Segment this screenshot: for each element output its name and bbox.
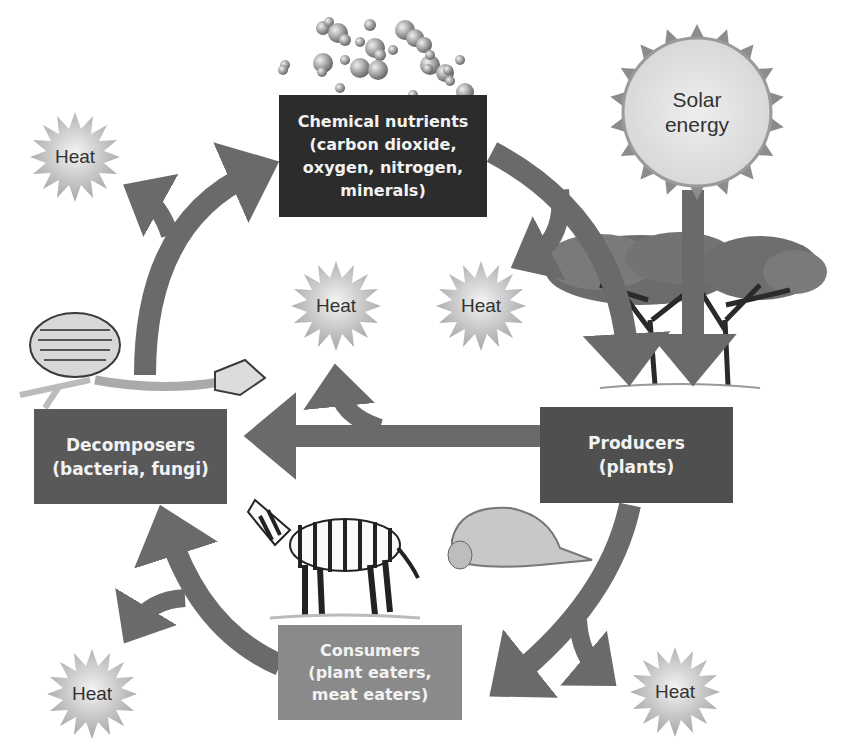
chemical-nutrients-line4: minerals) — [340, 179, 425, 202]
lioness-illustration — [448, 508, 592, 569]
producers-line1: Producers — [588, 431, 685, 455]
decomposers-line2: (bacteria, fungi) — [52, 457, 209, 481]
consumers-line2: (plant eaters, — [308, 662, 431, 684]
arrow-decomposers-to-heat — [142, 195, 170, 235]
consumers-line3: meat eaters) — [312, 684, 428, 706]
molecules-illustration — [278, 17, 474, 101]
heat-label-bottom-right: Heat — [630, 681, 720, 703]
heat-label-bottom-left: Heat — [47, 683, 137, 705]
heat-label-center-right: Heat — [436, 295, 526, 317]
decomposers-box: Decomposers (bacteria, fungi) — [34, 409, 227, 504]
chemical-nutrients-line3: oxygen, nitrogen, — [303, 156, 463, 179]
heat-label-center-left: Heat — [291, 295, 381, 317]
solar-energy-line1: Solar — [647, 87, 747, 112]
ecosystem-diagram: Chemical nutrients (carbon dioxide, oxyg… — [0, 0, 841, 753]
chemical-nutrients-line2: (carbon dioxide, — [309, 133, 456, 156]
consumers-box: Consumers (plant eaters, meat eaters) — [278, 625, 462, 720]
producers-box: Producers (plants) — [540, 407, 733, 503]
arrow-producers-to-heat — [337, 385, 380, 428]
zebra-illustration — [248, 500, 420, 618]
chemical-nutrients-box: Chemical nutrients (carbon dioxide, oxyg… — [279, 95, 487, 217]
solar-energy-label: Solar energy — [647, 87, 747, 137]
heat-label-top-left: Heat — [30, 146, 120, 168]
decomposers-line1: Decomposers — [66, 433, 195, 457]
consumers-line1: Consumers — [320, 640, 420, 662]
arrow-consumers-to-heat-right — [578, 620, 600, 672]
producers-line2: (plants) — [599, 455, 674, 479]
arrow-consumers-to-heat-left — [135, 598, 185, 625]
solar-energy-line2: energy — [647, 112, 747, 137]
chemical-nutrients-line1: Chemical nutrients — [298, 110, 469, 133]
